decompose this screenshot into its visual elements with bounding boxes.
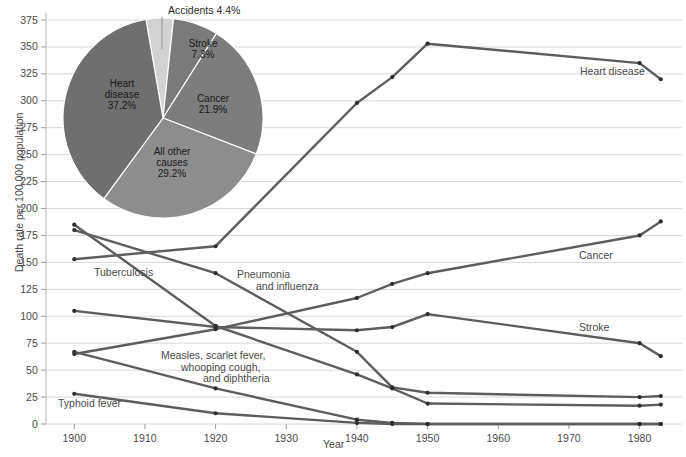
pie-label-stroke: Stroke 7.3% (176, 38, 230, 60)
y-tick-label: 100 (4, 310, 38, 322)
y-tick-label: 125 (4, 283, 38, 295)
x-axis-title: Year (323, 438, 344, 450)
pie-stroke-pct: 7.3% (192, 49, 215, 60)
pie-heart-pct: 37.2% (108, 100, 136, 111)
measles-label-line1: Measles, scarlet fever, (161, 349, 265, 361)
chart-canvas: 0255075100125150175200225250275300325350… (0, 0, 686, 457)
pie-stroke-name: Stroke (189, 38, 218, 49)
series-label-pneumonia-influenza: Pneumonia and influenza (237, 269, 318, 292)
pneumonia-label-line2: and influenza (237, 281, 318, 293)
y-tick-label: 50 (4, 364, 38, 376)
y-axis-title: Death rate per 100,000 population (13, 132, 25, 272)
y-tick-label: 25 (4, 391, 38, 403)
pie-label-all-other-causes: All other causes 29.2% (142, 146, 202, 179)
y-tick-label: 300 (4, 94, 38, 106)
series-label-tuberculosis: Tuberculosis (94, 267, 153, 279)
series-label-measles-group: Measles, scarlet fever, whooping cough, … (161, 350, 270, 385)
pie-heart-name1: Heart (110, 78, 134, 89)
pie-slices (63, 18, 263, 218)
x-tick-label: 1910 (125, 432, 165, 444)
series-label-cancer: Cancer (579, 250, 613, 262)
pie-other-pct: 29.2% (158, 168, 186, 179)
x-tick-label: 1960 (478, 432, 518, 444)
y-tick-label: 75 (4, 337, 38, 349)
pie-label-cancer: Cancer 21.9% (184, 93, 242, 115)
y-tick-label: 0 (4, 418, 38, 430)
x-tick-label: 1970 (549, 432, 589, 444)
x-tick-label: 1900 (54, 432, 94, 444)
pie-cancer-name: Cancer (197, 93, 229, 104)
x-tick-label: 1950 (408, 432, 448, 444)
pneumonia-label-line1: Pneumonia (237, 268, 290, 280)
y-tick-label: 375 (4, 14, 38, 26)
pie-cancer-pct: 21.9% (199, 104, 227, 115)
measles-label-line3: and diphtheria (161, 373, 270, 385)
y-tick-label: 350 (4, 40, 38, 52)
series-label-typhoid-fever: Typhoid fever (58, 398, 121, 410)
x-tick-label: 1920 (196, 432, 236, 444)
pie-other-name1: All other (154, 146, 191, 157)
series-label-heart-disease: Heart disease (580, 66, 645, 78)
y-tick-label: 325 (4, 67, 38, 79)
pie-label-accidents: Accidents 4.4% (168, 4, 240, 16)
pie-other-name2: causes (156, 157, 188, 168)
x-tick-label: 1930 (266, 432, 306, 444)
pie-label-heart-disease: Heart disease 37.2% (93, 78, 151, 111)
x-tick-label: 1980 (620, 432, 660, 444)
pie-heart-name2: disease (105, 89, 139, 100)
series-label-stroke: Stroke (579, 322, 609, 334)
